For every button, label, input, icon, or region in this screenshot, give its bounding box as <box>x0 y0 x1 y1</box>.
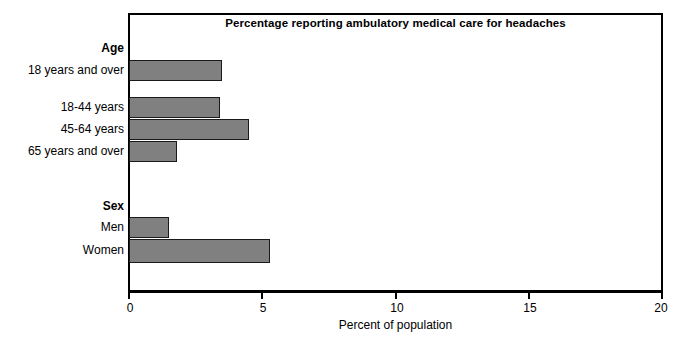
x-axis-title: Percent of population <box>128 318 663 332</box>
x-tick-label-15: 15 <box>510 301 550 315</box>
label-age-65-over: 65 years and over <box>0 144 124 158</box>
group-label-sex: Sex <box>0 199 124 213</box>
x-tick-label-0: 0 <box>110 301 150 315</box>
category-labels: Age 18 years and over 18-44 years 45-64 … <box>0 0 124 342</box>
label-age-18-over: 18 years and over <box>0 63 124 77</box>
label-age-45-64: 45-64 years <box>0 122 124 136</box>
group-label-age: Age <box>0 41 124 55</box>
label-age-18-44: 18-44 years <box>0 100 124 114</box>
x-tick-label-20: 20 <box>641 301 677 315</box>
x-tick-0 <box>128 291 130 299</box>
bar-chart: Percentage reporting ambulatory medical … <box>0 0 677 342</box>
bar-sex-women <box>129 239 270 263</box>
bar-age-45-64 <box>129 119 249 140</box>
x-tick-10 <box>395 291 397 299</box>
bar-age-65-over <box>129 141 177 162</box>
label-sex-men: Men <box>0 220 124 234</box>
x-tick-20 <box>661 291 663 299</box>
plot-area <box>129 14 662 291</box>
x-tick-label-5: 5 <box>243 301 283 315</box>
bar-age-18-over <box>129 60 222 81</box>
x-tick-label-10: 10 <box>377 301 417 315</box>
bar-sex-men <box>129 217 169 238</box>
x-tick-15 <box>528 291 530 299</box>
bar-age-18-44 <box>129 97 220 118</box>
x-tick-5 <box>261 291 263 299</box>
label-sex-women: Women <box>0 243 124 257</box>
